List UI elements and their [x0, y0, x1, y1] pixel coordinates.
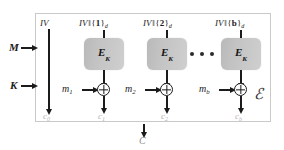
cipher-box-b-label: EK: [235, 47, 247, 61]
xor-gate-1: [97, 83, 110, 96]
message-block-arrow-1: [82, 89, 93, 91]
xor-gate-2: [160, 83, 173, 96]
cipher-box-2-label: EK: [161, 47, 173, 61]
iv-label-top: IV: [40, 19, 49, 28]
cipher-to-xor-arrow-b: [240, 70, 242, 83]
final-output-arrow: [143, 124, 145, 132]
xor-to-output-arrow-2: [166, 96, 168, 108]
message-block-label-2: m2: [125, 84, 136, 94]
message-input-arrow: [21, 47, 32, 49]
message-block-label-b: mb: [199, 84, 210, 94]
message-block-arrow-b: [219, 89, 230, 91]
counter-label-block-1: IV‖{1}d: [79, 19, 108, 28]
output-label-c1: c1: [98, 112, 105, 121]
iv-passthrough-arrow: [48, 29, 50, 109]
cipher-box-1-label: EK: [98, 47, 110, 61]
counter-to-cipher-arrow-2: [166, 30, 168, 38]
counter-label-block-b: IV‖{b}d: [215, 19, 244, 28]
ellipsis-indicator: [190, 52, 214, 56]
diagram-canvas: IV IV‖{1}d IV‖{2}d IV‖{b}d EK EK EK: [0, 0, 284, 150]
message-block-arrow-2: [145, 89, 156, 91]
xor-gate-b: [234, 83, 247, 96]
message-block-label-1: m1: [62, 84, 73, 94]
ellipsis-dot: [210, 52, 214, 56]
message-input-label: M: [9, 42, 19, 53]
scheme-name-label: ℰ: [254, 85, 263, 103]
final-output-label: C: [139, 136, 146, 146]
cipher-box-2: EK: [147, 38, 187, 70]
cipher-to-xor-arrow-2: [166, 70, 168, 83]
output-label-cb: cb: [235, 112, 242, 121]
key-input-arrow: [21, 85, 32, 87]
counter-to-cipher-arrow-b: [240, 30, 242, 38]
cipher-box-b: EK: [221, 38, 261, 70]
ellipsis-dot: [200, 52, 204, 56]
cipher-box-1: EK: [84, 38, 124, 70]
output-label-c0: c0: [43, 112, 50, 121]
ellipsis-dot: [190, 52, 194, 56]
output-label-c2: c2: [161, 112, 168, 121]
cipher-to-xor-arrow-1: [103, 70, 105, 83]
xor-to-output-arrow-b: [240, 96, 242, 108]
counter-label-block-2: IV‖{2}d: [143, 19, 172, 28]
xor-to-output-arrow-1: [103, 96, 105, 108]
counter-to-cipher-arrow-1: [103, 30, 105, 38]
key-input-label: K: [10, 80, 17, 91]
